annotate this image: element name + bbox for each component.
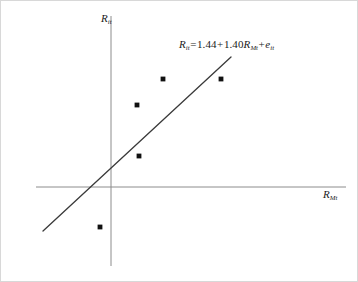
market-model-scatter-figure: Rit RMt Rit=1.44+1.40RMt+eit: [0, 0, 358, 282]
regression-line: [43, 57, 231, 231]
y-axis-label: Rit: [101, 13, 112, 24]
equation-slope-variable-subscript: Mt: [250, 44, 258, 51]
equation-intercept-value: 1.44: [197, 38, 217, 50]
data-point: [219, 77, 224, 82]
equation-slope-value: 1.40: [224, 38, 244, 50]
x-axis-label-base: R: [323, 188, 330, 200]
y-axis-label-subscript: it: [108, 18, 112, 25]
data-point: [98, 225, 103, 230]
regression-equation-annotation: Rit=1.44+1.40RMt+eit: [179, 39, 274, 50]
data-point: [137, 154, 142, 159]
data-point: [161, 77, 166, 82]
equation-lhs-subscript: it: [186, 44, 190, 51]
equation-lhs-base: R: [179, 38, 186, 50]
x-axis-label: RMt: [323, 189, 337, 200]
equation-plus-sign-1: +: [217, 38, 224, 50]
axes-group: [36, 16, 346, 266]
equation-error-term-subscript: it: [270, 44, 274, 51]
data-point-group: [98, 77, 224, 230]
equation-equals-sign: =: [190, 38, 197, 50]
y-axis-label-base: R: [101, 12, 108, 24]
regression-line-group: [43, 57, 231, 231]
data-point: [135, 103, 140, 108]
x-axis-label-subscript: Mt: [330, 194, 338, 201]
